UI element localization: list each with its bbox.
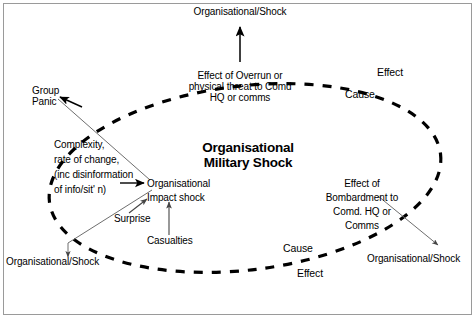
bombardment-line3: Comd. HQ or <box>313 206 411 218</box>
center-title-line2: Military Shock <box>178 155 318 170</box>
complexity-line1: Complexity, <box>54 139 104 151</box>
impact-node-line1: Organisational <box>147 178 210 190</box>
bottom-left-outcome-label: Organisational/Shock <box>6 256 99 268</box>
casualties-label: Casualties <box>147 235 193 247</box>
shock-diagram-figure: Organisational/Shock Effect of Overrun o… <box>0 0 475 318</box>
complexity-line3: (inc disinformation <box>54 169 133 181</box>
group-panic-line1: Group <box>32 85 59 97</box>
overrun-block-line3: HQ or comms <box>172 92 308 104</box>
overrun-block-line2: physical threat to Comd <box>172 81 308 93</box>
bottom-right-cause-label: Cause <box>283 243 313 255</box>
top-right-effect-label: Effect <box>377 67 403 79</box>
bottom-right-effect-label: Effect <box>297 268 323 280</box>
surprise-label: Surprise <box>114 213 150 225</box>
bombardment-line2: Bombardment to <box>313 192 411 204</box>
bombardment-line4: Comms <box>313 220 411 232</box>
overrun-block-line1: Effect of Overrun or <box>172 70 308 82</box>
complexity-line4: of info/sit' n) <box>54 184 106 196</box>
bombardment-line1: Effect of <box>313 178 411 190</box>
top-right-cause-label: Cause <box>345 89 375 101</box>
arrow-surprise-to-impact <box>129 199 147 213</box>
complexity-line2: rate of change, <box>54 154 119 166</box>
group-panic-line2: Panic <box>32 96 57 108</box>
top-outcome-label: Organisational/Shock <box>178 6 302 18</box>
bottom-right-outcome-label: Organisational/Shock <box>367 253 460 265</box>
arrow-to-group-panic <box>60 97 82 107</box>
impact-node-line2: Impact shock <box>147 192 205 204</box>
center-title-line1: Organisational <box>178 140 318 155</box>
